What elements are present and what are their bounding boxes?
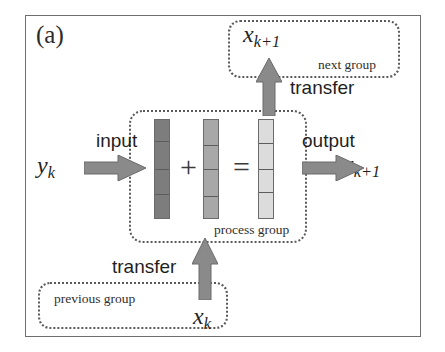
- vector-segment: [259, 144, 273, 170]
- vector-segment: [204, 120, 218, 146]
- vector-segment: [259, 120, 273, 144]
- state-vector-bar: [203, 119, 219, 219]
- output-label: output: [302, 131, 355, 150]
- output-vector-bar: [258, 119, 274, 219]
- transfer-arrow-up-icon: [256, 58, 282, 116]
- equals-operator: =: [233, 152, 250, 182]
- vector-segment: [259, 193, 273, 218]
- vector-segment: [204, 197, 218, 218]
- math-base: x: [193, 303, 204, 329]
- math-base: y: [37, 152, 48, 178]
- vector-segment: [155, 142, 169, 170]
- figure-canvas: (a) next group process group previous gr…: [0, 0, 445, 352]
- plus-operator: +: [180, 152, 197, 182]
- panel-label: (a): [36, 22, 64, 47]
- input-arrow-icon: [84, 155, 146, 181]
- previous-group-caption: previous group: [54, 292, 135, 306]
- math-subscript: k: [48, 163, 55, 182]
- math-label-y-input: yk: [37, 153, 55, 181]
- math-subscript: k: [204, 314, 211, 333]
- vector-segment: [204, 170, 218, 198]
- input-vector-bar: [154, 119, 170, 219]
- next-group-caption: next group: [318, 58, 376, 72]
- transfer-label-bottom: transfer: [112, 257, 176, 276]
- transfer-arrow-up-bottom-icon: [192, 238, 218, 300]
- vector-segment: [155, 170, 169, 196]
- math-label-x-next-top: xk+1: [243, 22, 280, 50]
- vector-segment: [155, 195, 169, 218]
- math-label-x-state-bottom: xk: [193, 304, 211, 332]
- math-base: x: [243, 21, 254, 47]
- transfer-label-top: transfer: [290, 78, 354, 97]
- vector-segment: [259, 170, 273, 194]
- output-arrow-icon: [302, 155, 364, 181]
- process-group-caption: process group: [214, 223, 289, 237]
- math-subscript: k+1: [254, 32, 280, 51]
- vector-segment: [204, 146, 218, 170]
- input-label: input: [96, 131, 137, 150]
- vector-segment: [155, 120, 169, 142]
